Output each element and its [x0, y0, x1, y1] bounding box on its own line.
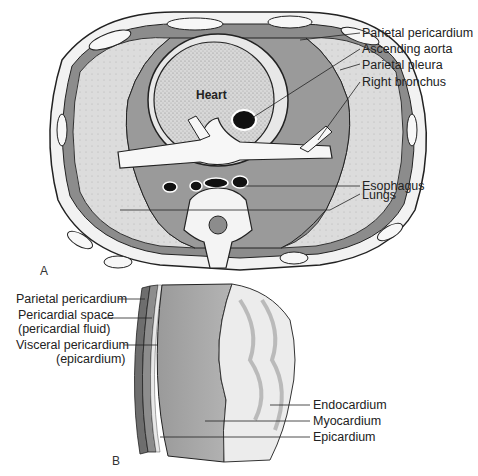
panel-letter-a: A [40, 264, 48, 278]
panel-b-wall-section [134, 284, 295, 462]
label-lungs: Lungs [362, 188, 396, 202]
label-visceral-pericardium: Visceral pericardium [16, 338, 129, 352]
panel-letter-b: B [112, 454, 120, 468]
label-ascending-aorta: Ascending aorta [362, 42, 452, 56]
label-parietal-pericardium-a: Parietal pericardium [362, 26, 473, 40]
label-epicardium: Epicardium [313, 430, 376, 444]
label-pericardial-fluid: (pericardial fluid) [18, 322, 110, 336]
label-parietal-pericardium-b: Parietal pericardium [16, 292, 127, 306]
label-endocardium: Endocardium [313, 398, 387, 412]
label-myocardium: Myocardium [313, 414, 381, 428]
label-parietal-pleura: Parietal pleura [362, 58, 443, 72]
label-pericardial-space: Pericardial space [18, 308, 114, 322]
label-epicardium-paren: (epicardium) [56, 352, 125, 366]
label-right-bronchus: Right bronchus [362, 75, 446, 89]
heart-label: Heart [196, 88, 227, 102]
